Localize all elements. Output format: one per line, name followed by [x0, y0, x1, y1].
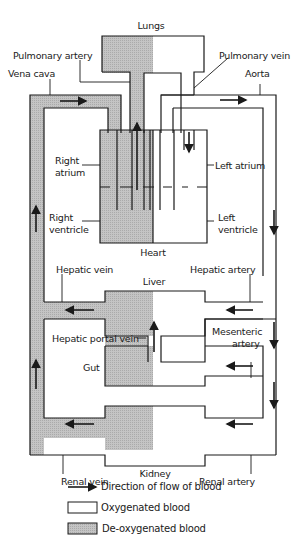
label-hepatic-artery: Hepatic artery [190, 264, 255, 275]
label-pulmonary-artery: Pulmonary artery [13, 50, 92, 61]
legend-oxygenated-swatch [68, 502, 97, 513]
label-right-atrium-1: Right [55, 155, 79, 166]
circulation-diagram [0, 0, 303, 548]
label-lungs: Lungs [137, 20, 164, 31]
label-hepatic-portal-vein: Hepatic portal vein [52, 333, 139, 344]
legend-deoxygenated-label: De-oxygenated blood [102, 523, 206, 534]
label-right-atrium-2: atrium [55, 167, 85, 178]
label-left-atrium: Left atrium [215, 160, 265, 171]
label-pulmonary-vein: Pulmonary vein [219, 50, 290, 61]
label-heart: Heart [140, 247, 165, 258]
label-mesenteric-artery-2: artery [232, 338, 260, 349]
label-aorta: Aorta [245, 68, 270, 79]
legend-oxygenated-label: Oxygenated blood [101, 502, 190, 513]
label-left-ventricle-2: ventricle [218, 224, 258, 235]
legend-deoxygenated-swatch [68, 523, 97, 534]
legend-flow-label: Direction of flow of blood [101, 481, 221, 492]
label-liver: Liver [143, 276, 165, 287]
label-right-ventricle-2: ventricle [49, 224, 89, 235]
label-vena-cava: Vena cava [8, 68, 55, 79]
label-right-ventricle-1: Right [49, 212, 73, 223]
label-left-ventricle-1: Left [218, 212, 235, 223]
label-gut: Gut [83, 362, 100, 373]
label-mesenteric-artery-1: Mesenteric [212, 326, 262, 337]
label-hepatic-vein: Hepatic vein [56, 264, 113, 275]
deoxygenated-regions [30, 36, 153, 455]
label-kidney: Kidney [139, 468, 170, 479]
